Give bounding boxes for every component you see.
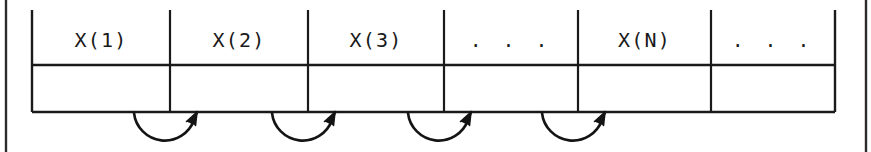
arrow-1-head (187, 112, 198, 126)
arrow-4-head (595, 112, 606, 126)
table-horizontal-rules (32, 65, 835, 112)
arrow-1 (134, 112, 197, 141)
arrow-1-arc (134, 113, 194, 141)
cell-label-ellipsis-left: . . . (444, 31, 578, 50)
cell-label-x2: X(2) (170, 30, 308, 50)
arrow-2-head (325, 112, 336, 126)
diagram-canvas (0, 0, 871, 152)
cell-label-x3: X(3) (308, 30, 444, 50)
arrow-3 (408, 112, 471, 141)
arrow-4-arc (542, 113, 602, 141)
array-diagram-figure: X(1) X(2) X(3) . . . X(N) . . . (0, 0, 871, 152)
cell-label-x1: X(1) (32, 30, 170, 50)
cell-label-ellipsis-right: . . . (711, 31, 835, 50)
table-vertical-rules (32, 10, 835, 112)
link-arrows (134, 112, 605, 141)
cell-label-xn: X(N) (578, 30, 711, 50)
page-margin-rules (6, 0, 866, 152)
arrow-3-head (461, 112, 472, 126)
arrow-3-arc (408, 113, 468, 141)
arrow-2 (272, 112, 335, 141)
arrow-4 (542, 112, 605, 141)
arrow-2-arc (272, 113, 332, 141)
